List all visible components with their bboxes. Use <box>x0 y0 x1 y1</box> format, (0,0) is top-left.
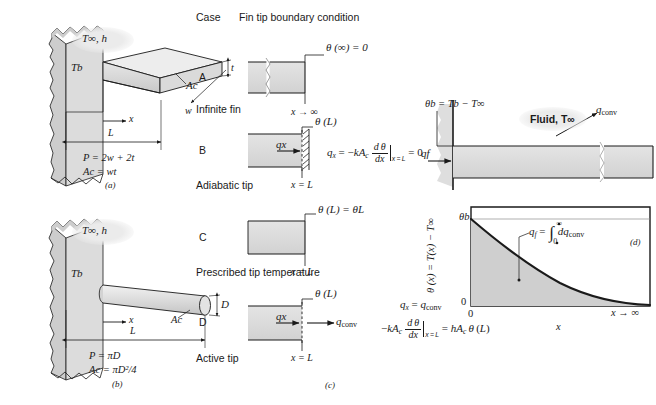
panel-b-area-formula: Ac = πD²/4 <box>89 365 137 376</box>
case-b-flux-label: qx <box>276 139 286 150</box>
panel-a-length-label: L <box>108 128 114 138</box>
case-d-equation-1: qx = qconv <box>400 299 442 312</box>
panel-b-base-temp-label: Tb <box>71 268 83 279</box>
plot-x-tick-infinity: x → ∞ <box>611 308 639 319</box>
case-c-axis-label: x = L <box>291 267 313 277</box>
plot-x-axis-label: x <box>556 322 561 333</box>
panel-b-caption: (b) <box>112 380 123 389</box>
plot-integral-annotation: qf = ∫∞0 dqconv <box>529 226 584 240</box>
panel-b-ambient-label: T∞, h <box>82 225 107 236</box>
case-a-name: Infinite fin <box>196 104 241 115</box>
panel-d-fin-heat-rate-label: qf <box>421 148 430 159</box>
panel-a-ambient-label: T∞, h <box>82 33 107 44</box>
case-a-tip-condition: θ (∞) = 0 <box>326 42 368 53</box>
case-c-letter: C <box>199 232 207 243</box>
panel-d-convection-label: qconv <box>596 104 617 117</box>
case-b-axis-label: x = L <box>291 180 313 190</box>
case-b-tip-condition: θ (L) <box>315 116 337 127</box>
plot-y-axis-label: θ (x) = T(x) − T∞ <box>426 218 437 293</box>
panel-c-caption: (c) <box>325 381 335 390</box>
panel-b-x-label: x <box>129 315 133 325</box>
panel-d-graphic <box>428 100 653 306</box>
case-d-equation-2: −kAc d θdxx = L = hAc θ (L) <box>381 318 490 340</box>
case-b-letter: B <box>199 145 206 156</box>
case-column-header: Case <box>196 12 221 23</box>
case-d-axis-label: x = L <box>291 353 313 363</box>
panel-a-caption: (a) <box>105 181 116 190</box>
case-d-tip-condition: θ (L) <box>315 288 337 299</box>
panel-b-perimeter-formula: P = πD <box>89 351 120 362</box>
boundary-condition-column-header: Fin tip boundary condition <box>239 12 359 23</box>
case-d-letter: D <box>199 317 207 328</box>
case-d-convection-label: qconv <box>336 316 357 329</box>
panel-a-area-formula: Ac = wt <box>83 167 116 178</box>
case-c-graphic <box>248 214 316 266</box>
figure-fin-analysis: T∞, h Tb Ac t w x L P = 2w + 2t Ac = wt … <box>0 0 656 405</box>
case-a-letter: A <box>199 72 206 83</box>
case-b-equation: qx = −kAc d θdxx = L = 0 <box>327 142 423 164</box>
panel-a-x-label: x <box>129 114 133 124</box>
case-a-graphic <box>248 55 324 104</box>
plot-x-tick-zero: 0 <box>468 309 473 320</box>
case-d-name: Active tip <box>196 353 239 364</box>
case-b-graphic <box>248 127 313 178</box>
panel-b-area-label: Ac <box>171 315 182 326</box>
case-c-tip-condition: θ (L) = θL <box>318 204 364 215</box>
plot-y-tick-zero: 0 <box>461 297 466 308</box>
plot-y-tick-theta-b: θb <box>459 212 469 223</box>
panel-b-graphic <box>49 219 220 380</box>
panel-a-base-temp-label: Tb <box>71 62 83 73</box>
case-d-flux-label: qx <box>276 311 286 322</box>
panel-d-theta-base-definition: θb = Tb − T∞ <box>425 99 485 110</box>
panel-a-width-label: w <box>185 106 192 116</box>
panel-a-area-label: Ac <box>186 80 198 91</box>
panel-b-diameter-label: D <box>221 299 229 310</box>
case-d-graphic <box>248 299 334 351</box>
panel-a-perimeter-formula: P = 2w + 2t <box>83 153 134 164</box>
case-b-name: Adiabatic tip <box>196 180 253 191</box>
panel-b-length-label: L <box>130 326 136 336</box>
panel-d-caption: (d) <box>630 238 641 247</box>
panel-a-thickness-label: t <box>231 63 234 73</box>
panel-d-fluid-label: Fluid, T∞ <box>530 114 575 125</box>
case-a-axis-label: x → ∞ <box>291 107 318 117</box>
